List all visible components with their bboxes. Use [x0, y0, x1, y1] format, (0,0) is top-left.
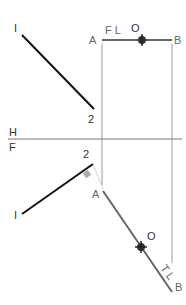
- label-o-front: O: [147, 230, 156, 242]
- label-1-top: I: [14, 22, 17, 34]
- label-h: H: [9, 126, 17, 138]
- label-a-top: A: [89, 34, 97, 46]
- label-a-front: A: [92, 188, 100, 200]
- label-o-top: O: [131, 22, 140, 34]
- descriptive-geometry-diagram: I 2 A F L O B H F 2 I A O T L B: [0, 0, 186, 305]
- label-b-top: B: [174, 34, 181, 46]
- label-b-front: B: [175, 281, 182, 293]
- label-1-front: I: [14, 209, 17, 221]
- label-2-top: 2: [88, 113, 94, 125]
- label-2-front: 2: [83, 148, 89, 160]
- top-line-1-2: [22, 35, 94, 109]
- label-tl: T L: [158, 262, 177, 282]
- front-line-a-b: [103, 191, 172, 292]
- front-line-1-2: [22, 164, 93, 214]
- label-fl: F L: [105, 24, 121, 36]
- label-f: F: [9, 141, 16, 153]
